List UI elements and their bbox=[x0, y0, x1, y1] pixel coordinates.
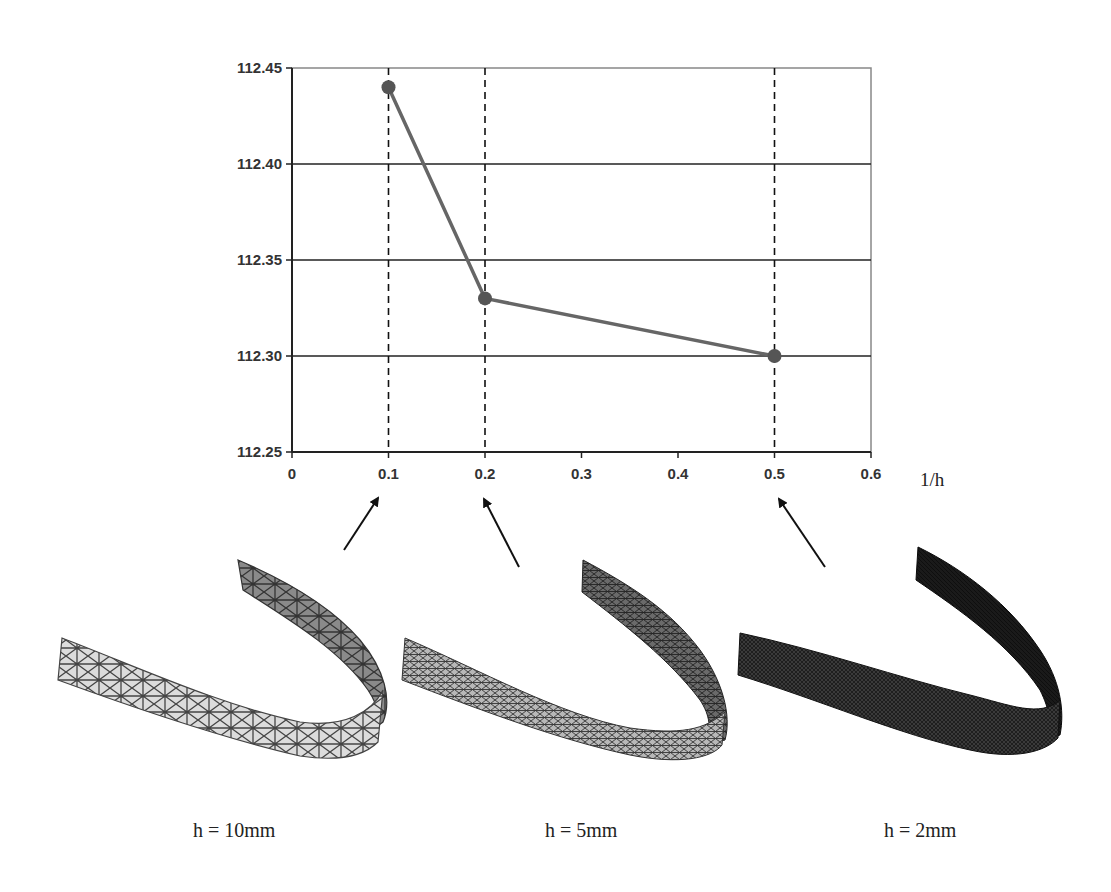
y-tick-label: 112.40 bbox=[237, 155, 282, 172]
x-tick-label: 0.2 bbox=[475, 465, 496, 482]
arrow-to-0.2 bbox=[484, 499, 519, 567]
x-tick-label: 0.5 bbox=[764, 465, 785, 482]
data-point bbox=[382, 80, 396, 94]
arrow-to-0.1 bbox=[344, 498, 378, 550]
annotation-arrows bbox=[344, 498, 825, 567]
caption-h5: h = 5mm bbox=[545, 819, 618, 841]
x-tick-label: 0.3 bbox=[571, 465, 592, 482]
mesh-coarse-h10 bbox=[58, 560, 387, 758]
caption-h10: h = 10mm bbox=[193, 819, 276, 841]
x-tick-label: 0 bbox=[288, 465, 296, 482]
mesh-fine-h2 bbox=[738, 547, 1062, 754]
caption-h2: h = 2mm bbox=[884, 819, 957, 841]
x-axis-title: 1/h bbox=[920, 469, 945, 490]
x-tick-label: 0.1 bbox=[378, 465, 399, 482]
x-tick-label: 0.6 bbox=[861, 465, 882, 482]
arrow-to-0.5 bbox=[779, 499, 825, 567]
convergence-figure: 112.25112.30112.35112.40112.4500.10.20.3… bbox=[0, 0, 1111, 892]
x-tick-label: 0.4 bbox=[668, 465, 690, 482]
line-chart: 112.25112.30112.35112.40112.4500.10.20.3… bbox=[237, 59, 945, 490]
y-tick-label: 112.25 bbox=[237, 443, 282, 460]
mesh-medium-h5 bbox=[402, 560, 727, 760]
data-point bbox=[478, 291, 492, 305]
y-tick-label: 112.30 bbox=[237, 347, 282, 364]
y-tick-label: 112.45 bbox=[237, 59, 282, 76]
data-point bbox=[768, 349, 782, 363]
y-tick-label: 112.35 bbox=[237, 251, 282, 268]
